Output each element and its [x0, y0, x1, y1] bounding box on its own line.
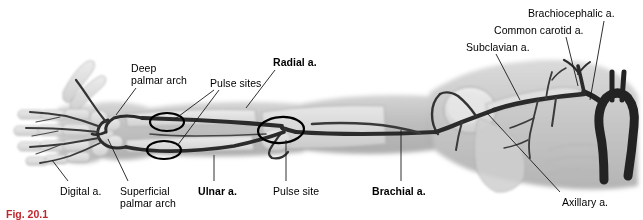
label-digital-a: Digital a. — [60, 186, 101, 198]
anatomy-figure: Deep palmar archPulse sitesRadial a.Subc… — [0, 0, 643, 220]
label-brachial-a: Brachial a. — [372, 186, 426, 198]
label-common-carotid-a: Common carotid a. — [494, 25, 584, 37]
label-pulse-sites: Pulse sites — [210, 78, 261, 90]
label-brachiocephalic-a: Brachiocephalic a. — [528, 8, 615, 20]
label-superficial-palmar-arch: Superficial palmar arch — [120, 186, 176, 209]
label-subclavian-a: Subclavian a. — [466, 42, 530, 54]
label-deep-palmar-arch: Deep palmar arch — [131, 63, 187, 86]
figure-caption: Fig. 20.1 — [6, 208, 48, 220]
label-pulse-site: Pulse site — [273, 186, 319, 198]
arm-bones — [261, 106, 386, 151]
label-radial-a: Radial a. — [273, 57, 317, 69]
label-axillary-a: Axillary a. — [562, 197, 608, 209]
label-ulnar-a: Ulnar a. — [198, 186, 237, 198]
